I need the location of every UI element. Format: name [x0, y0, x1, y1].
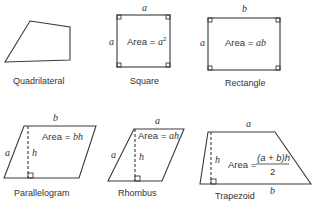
- square-side-top-label: a: [142, 2, 147, 13]
- rhombus-side-top-label: a: [155, 115, 160, 126]
- rectangle-area-formula: Area = ab: [225, 37, 266, 48]
- trapezoid-figure: a b h Area = (a + b)h 2 Trapezoid: [200, 118, 311, 201]
- rhombus-area-formula: Area = ah: [138, 130, 179, 141]
- square-side-left-label: a: [109, 36, 114, 47]
- quadrilateral-shape: [5, 21, 70, 62]
- quadrilateral-area-diagram: Quadrilateral a a Area = a2 Square b a A…: [0, 0, 315, 203]
- parallelogram-height-label: h: [32, 147, 37, 158]
- rhombus-figure: a a h Area = ah Rhombus: [108, 115, 184, 198]
- parallelogram-area-formula: Area = bh: [42, 131, 83, 142]
- parallelogram-caption: Parallelogram: [14, 188, 70, 198]
- parallelogram-figure: b a h Area = bh Parallelogram: [4, 112, 96, 198]
- square-figure: a a Area = a2 Square: [109, 2, 170, 86]
- trapezoid-area-formula: Area = (a + b)h 2: [228, 152, 290, 177]
- parallelogram-side-top-label: b: [53, 112, 58, 123]
- rhombus-caption: Rhombus: [118, 188, 157, 198]
- trapezoid-side-top-label: a: [246, 118, 251, 129]
- square-caption: Square: [130, 76, 159, 86]
- rhombus-side-left-label: a: [111, 149, 116, 160]
- quadrilateral-caption: Quadrilateral: [13, 76, 65, 86]
- svg-text:2: 2: [270, 166, 275, 177]
- parallelogram-side-left-label: a: [5, 147, 10, 158]
- trapezoid-caption: Trapezoid: [215, 191, 255, 201]
- rectangle-side-top-label: b: [242, 3, 247, 14]
- rectangle-side-left-label: a: [200, 37, 205, 48]
- rectangle-figure: b a Area = ab Rectangle: [200, 3, 280, 88]
- svg-text:Area =: Area =: [228, 159, 257, 170]
- svg-text:(a + b)h: (a + b)h: [257, 152, 290, 163]
- quadrilateral-figure: Quadrilateral: [5, 21, 70, 86]
- rectangle-caption: Rectangle: [225, 78, 266, 88]
- trapezoid-side-bottom-label: b: [270, 185, 275, 196]
- trapezoid-height-label: h: [215, 154, 220, 165]
- square-area-formula: Area = a2: [127, 36, 167, 47]
- rhombus-height-label: h: [139, 151, 144, 162]
